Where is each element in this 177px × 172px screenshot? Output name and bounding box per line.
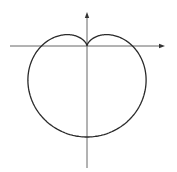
cardioid-plot bbox=[0, 0, 177, 172]
y-axis-arrow-icon bbox=[85, 12, 89, 18]
x-axis-arrow-icon bbox=[159, 44, 165, 48]
